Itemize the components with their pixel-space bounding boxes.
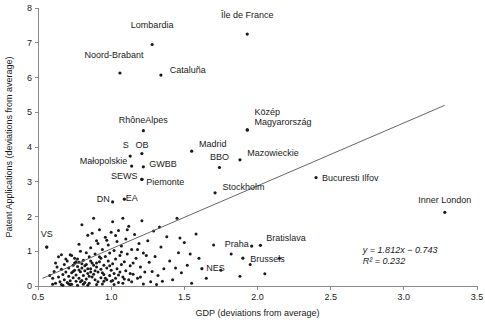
data-point: [126, 228, 129, 231]
data-point: [124, 238, 127, 241]
data-point: [98, 228, 101, 231]
data-point: [197, 257, 200, 260]
scatter-points-group: [45, 217, 281, 287]
data-point: [89, 259, 92, 262]
data-point: [77, 243, 80, 246]
data-point: [79, 280, 82, 283]
data-point: [110, 269, 113, 272]
data-point: [120, 263, 123, 266]
labeled-data-point: [111, 200, 114, 203]
data-point: [83, 269, 86, 272]
data-point: [105, 239, 108, 242]
data-point: [142, 282, 145, 285]
data-point: [168, 259, 171, 262]
labeled-data-point: [190, 150, 193, 153]
data-point: [82, 283, 85, 286]
data-point-label: Mazowieckie: [247, 148, 299, 158]
data-point-label: VS: [41, 229, 53, 239]
data-point: [159, 246, 162, 249]
data-point: [104, 255, 107, 258]
data-point: [96, 280, 99, 283]
data-point: [77, 277, 80, 280]
data-point: [77, 269, 80, 272]
data-point: [99, 276, 102, 279]
x-tick-label: 3.5: [471, 292, 484, 302]
x-tick-label: 1.5: [178, 292, 191, 302]
data-point: [114, 257, 117, 260]
data-point: [107, 259, 110, 262]
data-point: [96, 271, 99, 274]
data-point: [67, 275, 70, 278]
x-tick-label: 2.0: [251, 292, 264, 302]
data-point: [123, 278, 126, 281]
data-point: [91, 275, 94, 278]
data-point: [205, 277, 208, 280]
data-point-label: Bratislava: [266, 233, 306, 243]
data-point: [116, 267, 119, 270]
labeled-points-group: Île de FranceLombardiaNoord-BrabantCatal…: [41, 10, 472, 274]
data-point-label: Brussels: [250, 254, 285, 264]
labeled-data-point: [129, 154, 132, 157]
labeled-data-point: [130, 165, 133, 168]
data-point: [133, 233, 136, 236]
labeled-data-point: [241, 257, 244, 260]
data-point: [143, 271, 146, 274]
labeled-data-point: [246, 128, 249, 131]
data-point: [117, 229, 120, 232]
y-tick-label: 2: [27, 212, 32, 222]
data-point: [102, 280, 105, 283]
data-point: [140, 219, 143, 222]
data-point-label: SEWS: [111, 171, 138, 181]
data-point: [79, 250, 82, 253]
data-point: [132, 262, 135, 265]
labeled-data-point: [246, 32, 249, 35]
data-point: [73, 257, 76, 260]
labeled-data-point: [118, 71, 121, 74]
data-point: [70, 254, 73, 257]
data-point: [186, 264, 189, 267]
labeled-data-point: [314, 176, 317, 179]
data-point: [86, 267, 89, 270]
data-point: [102, 264, 105, 267]
data-point-label: RhôneAlpes: [119, 115, 169, 125]
data-point: [142, 251, 145, 254]
y-tick-label: 1: [27, 246, 32, 256]
data-point: [117, 281, 120, 284]
data-point: [92, 273, 95, 276]
data-point-label: Inner London: [418, 195, 471, 205]
data-point: [162, 267, 165, 270]
data-point-label: Noord-Brabant: [85, 50, 145, 60]
data-point: [111, 220, 114, 223]
data-point: [176, 217, 179, 220]
labeled-data-point: [140, 152, 143, 155]
data-point: [135, 257, 138, 260]
data-point: [129, 272, 132, 275]
data-point: [117, 273, 120, 276]
labeled-data-point: [200, 267, 203, 270]
data-point-label: BBO: [210, 152, 229, 162]
data-point: [95, 283, 98, 286]
data-point: [107, 243, 110, 246]
data-point-label: DN: [97, 194, 110, 204]
data-point: [54, 282, 57, 285]
data-point: [118, 254, 121, 257]
labeled-data-point: [250, 244, 253, 247]
data-point: [83, 264, 86, 267]
labeled-data-point: [213, 191, 216, 194]
data-point: [89, 246, 92, 249]
data-point: [137, 242, 140, 245]
data-point: [88, 275, 91, 278]
data-point: [123, 260, 126, 263]
data-point: [146, 239, 149, 242]
data-point: [58, 280, 61, 283]
data-point: [89, 267, 92, 270]
data-point: [57, 275, 60, 278]
data-point: [95, 262, 98, 265]
data-point: [130, 248, 133, 251]
data-point-label: Praha: [225, 239, 249, 249]
data-point: [195, 232, 198, 235]
data-point-label: Magyarország: [255, 117, 312, 127]
data-point: [116, 240, 119, 243]
labeled-data-point: [151, 43, 154, 46]
data-point: [118, 271, 121, 274]
